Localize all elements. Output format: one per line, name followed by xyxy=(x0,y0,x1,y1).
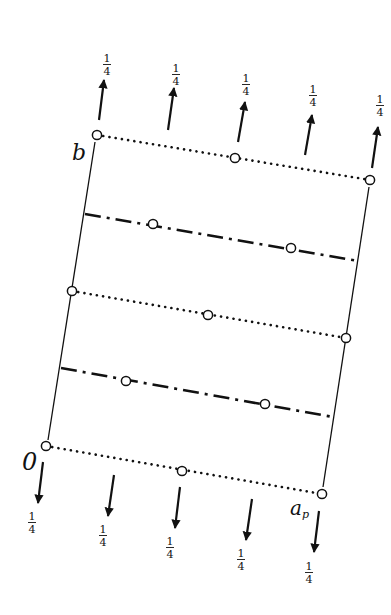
symmetry-diagram: b 0 ap 14141414141414141414 xyxy=(0,0,391,615)
fraction-numerator: 1 xyxy=(306,560,313,573)
fraction-denominator: 4 xyxy=(29,523,36,536)
fraction-numerator: 1 xyxy=(310,83,317,96)
inversion-center-circle xyxy=(365,175,374,184)
arrow xyxy=(305,115,312,155)
fraction-denominator: 4 xyxy=(238,560,245,573)
fraction-one-quarter: 14 xyxy=(166,535,174,561)
dash-dot-line xyxy=(85,214,358,261)
dash-dot-line xyxy=(61,368,333,417)
arrow xyxy=(246,499,252,540)
fraction-one-quarter: 14 xyxy=(309,83,317,109)
fraction-one-quarter: 14 xyxy=(242,72,250,98)
inversion-center-circle xyxy=(286,243,295,252)
fraction-numerator: 1 xyxy=(243,72,250,85)
fraction-denominator: 4 xyxy=(377,106,384,119)
inversion-center-circle xyxy=(317,489,326,498)
fraction-numerator: 1 xyxy=(173,62,180,75)
a-axis-label: ap xyxy=(290,496,309,521)
arrow xyxy=(108,475,114,516)
inversion-center-circle xyxy=(203,310,212,319)
inversion-center-circle xyxy=(177,466,186,475)
fraction-one-quarter: 14 xyxy=(172,62,180,88)
arrow xyxy=(314,511,319,552)
fraction-numerator: 1 xyxy=(100,523,107,536)
origin-label: 0 xyxy=(22,448,37,476)
inversion-center-circle xyxy=(92,130,101,139)
inversion-center-circle xyxy=(341,333,350,342)
inversion-center-circle xyxy=(67,286,76,295)
fraction-one-quarter: 14 xyxy=(305,560,313,586)
b-axis-label: b xyxy=(72,140,86,165)
fraction-denominator: 4 xyxy=(243,85,250,98)
fraction-denominator: 4 xyxy=(306,573,313,586)
fraction-one-quarter: 14 xyxy=(237,547,245,573)
arrow xyxy=(372,127,378,168)
fraction-one-quarter: 14 xyxy=(28,510,36,536)
inversion-center-circle xyxy=(260,399,269,408)
fraction-one-quarter: 14 xyxy=(99,523,107,549)
inversion-center-circle xyxy=(121,376,130,385)
fraction-one-quarter: 14 xyxy=(376,93,384,119)
fraction-denominator: 4 xyxy=(167,548,174,561)
inversion-center-circle xyxy=(230,153,239,162)
fraction-denominator: 4 xyxy=(173,75,180,88)
fraction-denominator: 4 xyxy=(310,96,317,109)
fraction-one-quarter: 14 xyxy=(103,52,111,78)
fraction-denominator: 4 xyxy=(100,536,107,549)
inversion-centers xyxy=(41,130,374,498)
fraction-numerator: 1 xyxy=(29,510,36,523)
arrow xyxy=(175,487,180,528)
fraction-numerator: 1 xyxy=(377,93,384,106)
inversion-center-circle xyxy=(148,219,157,228)
fraction-numerator: 1 xyxy=(104,52,111,65)
arrow xyxy=(99,80,104,120)
fraction-denominator: 4 xyxy=(104,65,111,78)
arrow xyxy=(38,462,43,503)
fraction-numerator: 1 xyxy=(167,535,174,548)
inversion-center-circle xyxy=(41,441,50,450)
fraction-numerator: 1 xyxy=(238,547,245,560)
arrow xyxy=(168,88,174,130)
arrow xyxy=(238,102,245,142)
